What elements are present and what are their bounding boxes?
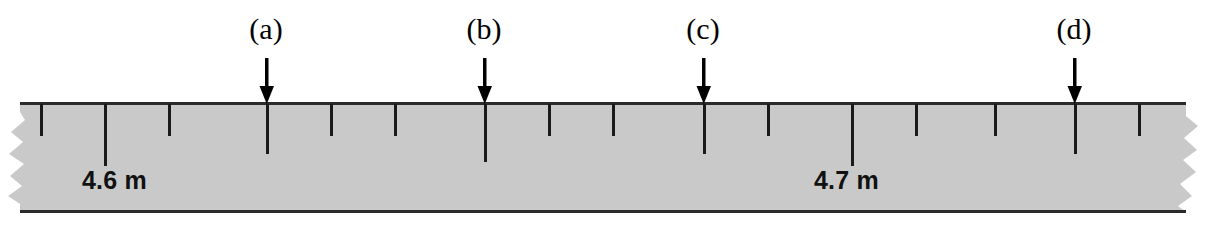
tick-mark bbox=[168, 104, 171, 136]
tick-mark-callout-a bbox=[266, 104, 269, 154]
tick-mark bbox=[330, 104, 333, 136]
measuring-tape-figure: (a) (b) (c) (d) 4.6 m 4.7 m bbox=[0, 0, 1206, 228]
down-arrow-icon bbox=[474, 58, 496, 104]
callout-arrow-c bbox=[693, 58, 715, 104]
tick-mark bbox=[1138, 104, 1141, 136]
tape-strip bbox=[0, 100, 1206, 216]
callout-arrow-a bbox=[256, 58, 278, 104]
tape-bottom-edge-line bbox=[20, 210, 1186, 213]
tick-mark bbox=[915, 104, 918, 136]
tick-mark bbox=[104, 104, 107, 166]
tape-fill bbox=[8, 104, 1198, 212]
tick-mark bbox=[548, 104, 551, 136]
tick-mark bbox=[612, 104, 615, 136]
tick-mark-callout-d bbox=[1074, 104, 1077, 154]
tick-mark-callout-c bbox=[703, 104, 706, 154]
callout-label-d: (d) bbox=[1039, 14, 1109, 44]
callout-label-b: (b) bbox=[449, 14, 519, 44]
tape-body-shape bbox=[0, 100, 1206, 216]
tick-mark bbox=[767, 104, 770, 136]
tick-mark bbox=[40, 104, 43, 136]
distance-label-right: 4.7 m bbox=[814, 166, 879, 195]
distance-label-left: 4.6 m bbox=[82, 166, 147, 195]
tape-top-edge-line bbox=[20, 102, 1186, 105]
callout-arrow-d bbox=[1064, 58, 1086, 104]
tick-mark bbox=[851, 104, 854, 166]
tick-mark bbox=[994, 104, 997, 136]
down-arrow-icon bbox=[693, 58, 715, 104]
callout-label-c: (c) bbox=[668, 14, 738, 44]
tick-mark-callout-b bbox=[484, 104, 487, 162]
tick-mark bbox=[394, 104, 397, 136]
down-arrow-icon bbox=[1064, 58, 1086, 104]
callout-arrow-b bbox=[474, 58, 496, 104]
down-arrow-icon bbox=[256, 58, 278, 104]
callout-label-a: (a) bbox=[231, 14, 301, 44]
